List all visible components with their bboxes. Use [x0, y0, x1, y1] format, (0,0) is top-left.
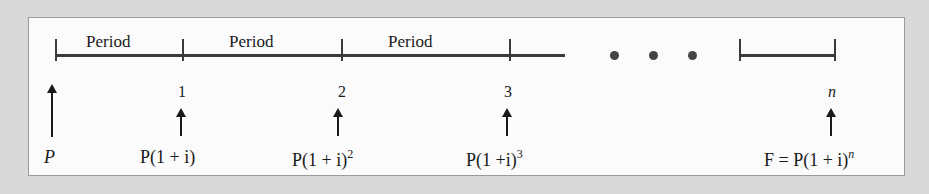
period-number-2: 2 — [338, 83, 346, 101]
value-p: P — [44, 147, 55, 168]
tick-0 — [55, 39, 57, 61]
period-number-n: n — [828, 83, 836, 101]
ellipsis-dot-icon — [688, 51, 697, 60]
period-number-3: 3 — [504, 83, 512, 101]
exponent-3: 3 — [517, 147, 523, 161]
arrow-up-icon — [51, 90, 53, 137]
period-label-2: Period — [229, 32, 273, 52]
value-p2: P(1 + i)2 — [292, 147, 353, 171]
exponent-2: 2 — [347, 147, 353, 161]
value-future: F = P(1 + i)n — [764, 147, 854, 171]
timeline-axis — [55, 54, 565, 57]
period-label-1: Period — [86, 32, 130, 52]
tick-2 — [341, 39, 343, 61]
period-number-1: 1 — [178, 83, 186, 101]
timeline-axis-final-segment — [739, 54, 835, 57]
value-p1-text: P(1 + i) — [140, 147, 195, 167]
arrow-up-icon — [830, 114, 832, 136]
arrow-up-icon — [506, 114, 508, 136]
exponent-n: n — [848, 147, 854, 161]
value-p-text: P — [44, 147, 55, 167]
value-future-text: F = P(1 + i) — [764, 150, 848, 170]
ellipsis-dot-icon — [610, 51, 619, 60]
arrow-up-icon — [337, 114, 339, 136]
arrow-up-icon — [180, 114, 182, 136]
tick-n-minus-1 — [739, 39, 741, 61]
ellipsis-dot-icon — [649, 51, 658, 60]
period-label-3: Period — [388, 32, 432, 52]
tick-3 — [509, 39, 511, 61]
tick-n — [834, 39, 836, 61]
value-p1: P(1 + i) — [140, 147, 195, 168]
value-p3: P(1 +i)3 — [466, 147, 523, 171]
tick-1 — [182, 39, 184, 61]
value-p3-text: P(1 +i) — [466, 150, 517, 170]
value-p2-text: P(1 + i) — [292, 150, 347, 170]
